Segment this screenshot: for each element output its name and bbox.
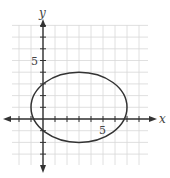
y-tick-label-5: 5: [31, 55, 38, 68]
y-axis-down-arrow-icon: [40, 165, 46, 173]
x-axis-right-arrow-icon: [149, 116, 157, 122]
coordinate-graph: x y 5 5: [0, 0, 170, 178]
grid-lines: [12, 25, 148, 165]
x-axis-label: x: [159, 112, 166, 126]
x-tick-label-5: 5: [99, 124, 106, 137]
y-axis-label: y: [38, 6, 46, 20]
x-axis-left-arrow-icon: [3, 116, 11, 122]
